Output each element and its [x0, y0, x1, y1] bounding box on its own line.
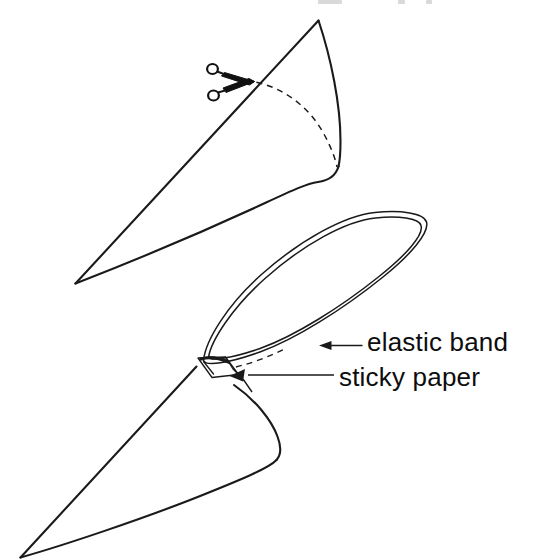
lower-cone-rim-curve — [21, 460, 277, 558]
diagram-canvas — [0, 0, 554, 560]
label-elastic-band: elastic band — [367, 329, 508, 355]
label-sticky-paper: sticky paper — [339, 364, 480, 390]
upper-cone-rim-curve — [76, 167, 339, 284]
sticky-paper-pointer-stem — [243, 379, 252, 392]
scissors-upper-ring — [207, 64, 218, 74]
scissors-icon — [207, 64, 254, 101]
upper-cone-upper-edge — [76, 21, 319, 284]
upper-cone-cut-line — [246, 81, 338, 168]
elastic-band-arrowhead-icon — [319, 341, 332, 350]
lower-cone-right-edge — [234, 385, 280, 460]
scissors-lower-shank — [218, 91, 225, 93]
figure-root: elastic band sticky paper — [0, 0, 554, 560]
cropped-caption-remnant — [318, 0, 432, 4]
scissors-lower-ring — [208, 91, 219, 101]
